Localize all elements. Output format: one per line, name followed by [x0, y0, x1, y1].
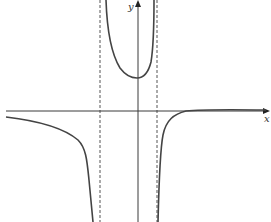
x-axis-label: x — [264, 113, 270, 124]
y-axis-label: y — [127, 1, 134, 12]
graph-figure: y x — [0, 0, 271, 222]
y-axis-arrow-icon — [135, 0, 141, 7]
right-branch-curve — [158, 110, 266, 222]
graph-canvas: y x — [0, 0, 271, 222]
left-branch-curve — [6, 117, 93, 222]
